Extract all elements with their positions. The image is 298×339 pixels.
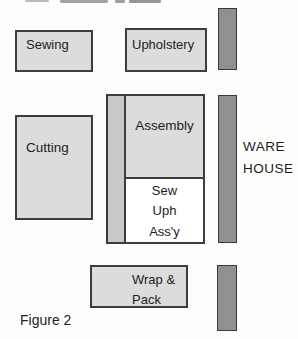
warehouse-dock-bottom-bar — [217, 265, 237, 331]
wrap-pack-label-line2: Pack — [132, 290, 186, 310]
wrap-pack-label-line1: Wrap & — [132, 270, 186, 290]
upholstery-room-box: Upholstery — [125, 28, 207, 72]
assembly-corridor-strip — [108, 96, 126, 242]
cropped-title-fragment — [115, 0, 125, 3]
cropped-title-fragment — [25, 0, 49, 2]
finishing-line-assy: Ass'y — [126, 222, 203, 243]
assembly-area: Assembly — [126, 96, 203, 179]
warehouse-dock-top-bar — [218, 8, 237, 70]
warehouse-label-line1: WARE — [243, 136, 294, 158]
sewing-room-label: Sewing — [26, 37, 69, 52]
warehouse-dock-middle-bar — [218, 95, 237, 243]
assembly-right-section: Assembly Sew Uph Ass'y — [126, 96, 203, 242]
facility-layout-diagram: Sewing Upholstery Cutting Assembly Sew U… — [0, 0, 298, 339]
warehouse-label-line2: HOUSE — [243, 158, 294, 180]
cropped-title-fragment — [129, 0, 161, 3]
sewing-room-box: Sewing — [15, 30, 93, 72]
wrap-pack-room-box: Wrap & Pack — [90, 265, 188, 308]
cutting-room-label: Cutting — [26, 140, 69, 155]
figure-caption: Figure 2 — [20, 312, 71, 328]
assembly-area-label: Assembly — [135, 118, 194, 133]
warehouse-label: WARE HOUSE — [243, 136, 294, 180]
assembly-block: Assembly Sew Uph Ass'y — [106, 94, 205, 244]
cutting-room-box: Cutting — [15, 115, 93, 220]
finishing-line-uph: Uph — [126, 201, 203, 222]
finishing-area: Sew Uph Ass'y — [126, 179, 203, 243]
upholstery-room-label: Upholstery — [132, 37, 194, 52]
cropped-title-fragment — [60, 0, 108, 3]
finishing-line-sew: Sew — [126, 181, 203, 202]
